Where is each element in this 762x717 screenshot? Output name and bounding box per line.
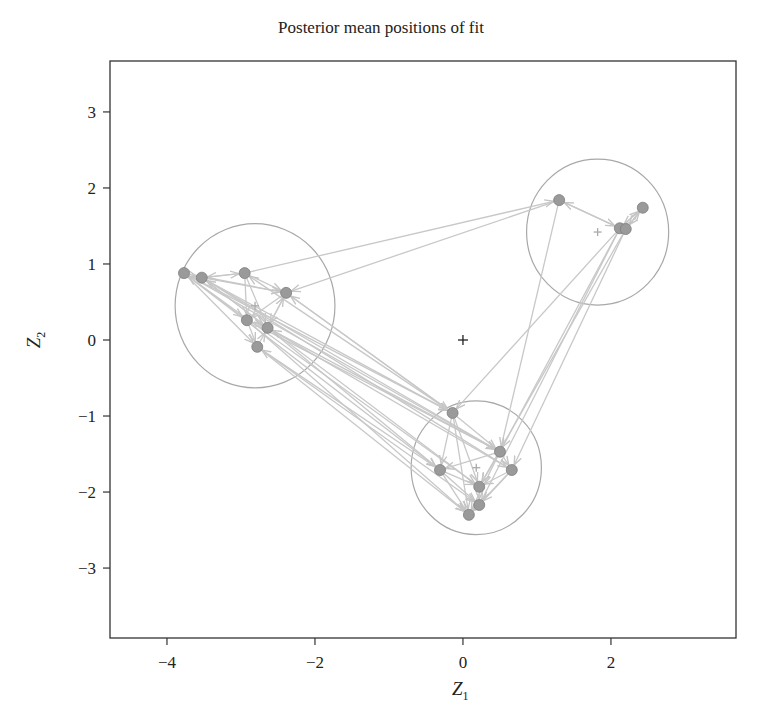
- x-tick-label: −2: [306, 653, 324, 672]
- network-edges: [188, 201, 639, 511]
- edge: [249, 276, 448, 410]
- node-point: [637, 202, 648, 213]
- edge: [291, 202, 554, 291]
- y-axis-label: Z2: [23, 332, 49, 349]
- edge: [250, 201, 554, 271]
- x-tick-label: 0: [459, 653, 468, 672]
- node-point: [494, 446, 505, 457]
- edge: [441, 418, 451, 464]
- x-axis-label: Z1: [452, 678, 469, 704]
- edge: [514, 234, 623, 465]
- y-tick-label: 1: [88, 255, 97, 274]
- edge: [482, 233, 618, 500]
- edge: [188, 276, 435, 466]
- node-point: [252, 341, 263, 352]
- y-tick-label: 3: [88, 103, 97, 122]
- edge: [272, 331, 436, 466]
- cluster-right-center-plus-icon: [594, 228, 602, 236]
- node-point: [474, 481, 485, 492]
- y-tick-label: −1: [78, 407, 96, 426]
- edge: [456, 232, 616, 409]
- edge: [188, 276, 474, 483]
- node-point: [620, 224, 631, 235]
- node-point: [435, 464, 446, 475]
- origin-plus-icon: [458, 335, 468, 345]
- node-point: [262, 322, 273, 333]
- node-point: [196, 272, 207, 283]
- edge: [245, 279, 247, 315]
- edge: [501, 205, 558, 446]
- node-point: [239, 268, 250, 279]
- plot-frame: [110, 61, 736, 638]
- edge: [262, 350, 436, 467]
- scatter-plot: −4−202 −3−2−10123: [0, 0, 762, 717]
- x-tick-label: 2: [607, 653, 616, 672]
- x-axis-ticks: −4−202: [158, 638, 615, 672]
- edge: [207, 274, 239, 277]
- y-tick-label: −3: [78, 559, 96, 578]
- y-tick-label: 2: [88, 179, 97, 198]
- node-point: [281, 287, 292, 298]
- y-tick-label: 0: [88, 331, 97, 350]
- node-point: [463, 509, 474, 520]
- y-tick-label: −2: [78, 483, 96, 502]
- edge: [503, 456, 509, 465]
- edge: [207, 280, 496, 449]
- node-point: [554, 195, 565, 206]
- x-tick-label: −4: [158, 653, 177, 672]
- node-point: [178, 268, 189, 279]
- y-axis-ticks: −3−2−10123: [78, 103, 110, 578]
- node-point: [447, 407, 458, 418]
- node-point: [506, 464, 517, 475]
- edge: [445, 453, 494, 468]
- node-point: [241, 315, 252, 326]
- edge: [206, 281, 475, 483]
- edge: [564, 202, 615, 226]
- node-point: [474, 499, 485, 510]
- edge: [272, 331, 507, 468]
